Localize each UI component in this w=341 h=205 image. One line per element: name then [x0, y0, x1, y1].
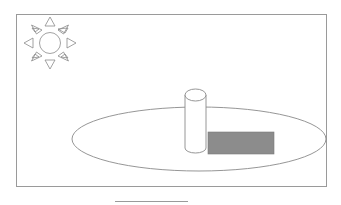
scene-frame [17, 15, 327, 187]
diagram-canvas [0, 0, 341, 205]
cylinder-pole [185, 89, 206, 153]
sun-icon [24, 17, 76, 69]
shadow-rect [208, 132, 274, 154]
